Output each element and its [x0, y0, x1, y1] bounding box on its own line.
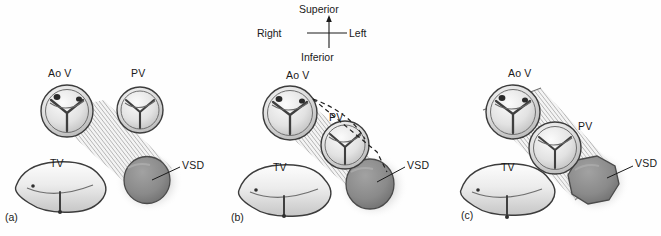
coronary-ostium-right-c	[522, 97, 528, 102]
coronary-ostium-left-b	[276, 96, 283, 102]
label-vsd-b: VSD	[407, 160, 429, 171]
label-aortic-valve-a: Ao V	[48, 68, 72, 79]
panel-c: Ao V PV TV VSD (c)	[455, 0, 661, 236]
label-tricuspid-valve-c: TV	[501, 162, 515, 173]
label-tricuspid-valve-a: TV	[50, 158, 64, 169]
label-vsd-c: VSD	[635, 158, 657, 169]
label-tricuspid-valve-b: TV	[273, 162, 287, 173]
panel-letter-a: (a)	[5, 212, 18, 223]
panel-b: Ao V PV TV VSD (b)	[225, 0, 455, 236]
label-aortic-valve-b: Ao V	[286, 70, 310, 81]
label-pulmonary-valve-b: PV	[329, 112, 343, 123]
coronary-ostium-right-a	[76, 96, 82, 101]
panel-a: Ao V PV TV VSD (a)	[0, 0, 225, 236]
coronary-ostium-right-b	[299, 98, 305, 103]
label-vsd-a: VSD	[182, 160, 204, 171]
label-pulmonary-valve-c: PV	[578, 121, 592, 132]
label-pulmonary-valve-a: PV	[131, 68, 145, 79]
coronary-ostium-left-a	[54, 94, 61, 100]
panel-a-illustration	[0, 0, 225, 236]
panel-letter-b: (b)	[231, 212, 244, 223]
label-aortic-valve-c: Ao V	[508, 68, 532, 79]
panel-letter-c: (c)	[461, 210, 473, 221]
cardiac-valve-figure: Superior Inferior Right Left	[0, 0, 661, 236]
panel-c-illustration	[455, 0, 661, 236]
coronary-ostium-left-c	[499, 95, 506, 101]
